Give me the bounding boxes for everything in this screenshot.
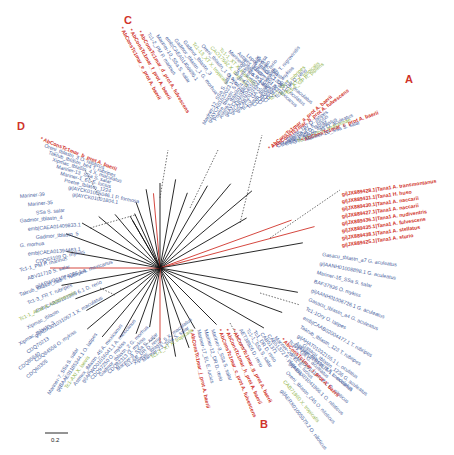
clade-label-d: D (17, 120, 25, 132)
scale-bar-label: 0.2 (51, 437, 60, 443)
label-leader-lines (85, 135, 340, 350)
clade-label-c: C (124, 14, 132, 26)
leaf-label: Mariner-39 (20, 191, 46, 199)
clade-label-a: A (405, 73, 413, 85)
leaf-label: Gadmor_tblastn_4 (20, 214, 63, 224)
scale-bar: 0.2 (45, 433, 68, 443)
leader-line (90, 215, 135, 228)
leader-line (240, 135, 262, 223)
leaf-label: G. morhua (20, 240, 45, 248)
leaf-labels: * AbConsTc1mar_e_prot A. baerii* AbConsT… (17, 26, 437, 451)
leader-line (260, 293, 300, 305)
branch (160, 227, 315, 268)
leaf-label: Gadmor_tblastn_5 (36, 230, 79, 240)
leaf-label: Mariner-35 (28, 199, 54, 207)
clade-label-b: B (260, 418, 268, 430)
leader-line (160, 150, 168, 198)
branch (160, 268, 282, 312)
leader-line (270, 190, 340, 238)
leader-line (190, 150, 218, 208)
phylogenetic-tree: C A D B * AbConsTc1mar_e_prot A. baerii*… (0, 0, 454, 455)
leaf-label: gi|AERX01005579.2 O. niloticus (279, 388, 329, 451)
